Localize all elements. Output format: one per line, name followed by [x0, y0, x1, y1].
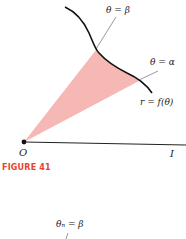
next-figure-leader-line	[66, 233, 68, 239]
figure-caption: FIGURE 41	[2, 163, 51, 172]
polar-area-diagram	[0, 0, 186, 239]
label-theta-beta: θ = β	[106, 6, 130, 15]
polar-axis	[24, 142, 186, 145]
label-theta-alpha: θ = α	[150, 58, 175, 67]
label-curve-equation: r = f(θ)	[140, 98, 173, 107]
label-theta-n-beta: θₙ = β	[56, 220, 84, 229]
label-axis-end: I	[170, 149, 174, 159]
beta-leader-line	[96, 17, 116, 49]
alpha-leader-line	[139, 71, 158, 80]
shaded-sector	[24, 50, 139, 142]
origin-point	[22, 140, 27, 145]
label-origin: O	[19, 148, 27, 158]
